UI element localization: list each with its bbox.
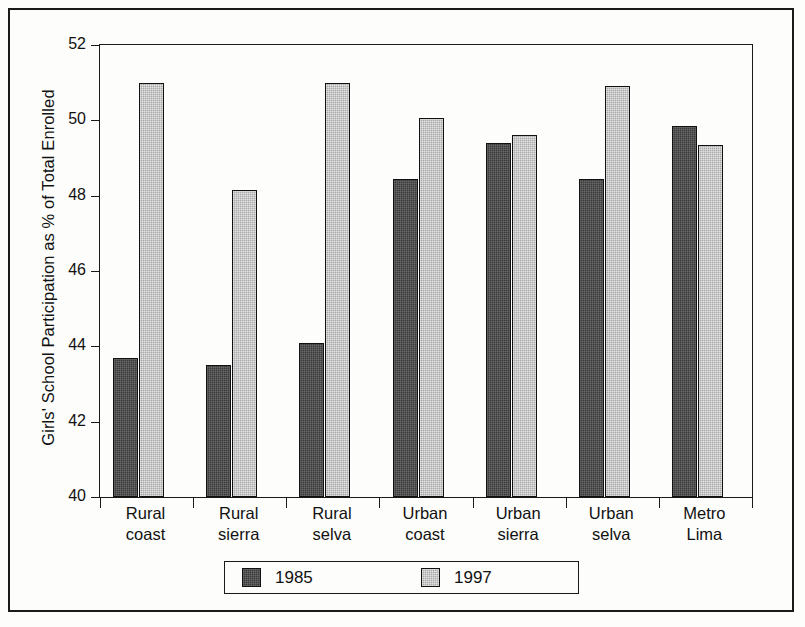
bar-group-rural-selva bbox=[299, 45, 350, 497]
plot-area: 40424446485052 bbox=[99, 44, 753, 498]
x-label-line: selva bbox=[285, 524, 378, 545]
x-label-line: Urban bbox=[565, 503, 658, 524]
x-label-urban-coast: Urbancoast bbox=[378, 503, 471, 545]
x-label-line: selva bbox=[565, 524, 658, 545]
x-label-line: coast bbox=[378, 524, 471, 545]
x-label-line: Metro bbox=[658, 503, 751, 524]
bar-1985-rural-selva bbox=[299, 343, 324, 497]
y-tick-label: 42 bbox=[68, 412, 86, 430]
x-label-rural-sierra: Ruralsierra bbox=[192, 503, 285, 545]
bar-group-urban-selva bbox=[579, 45, 630, 497]
bar-1985-rural-coast bbox=[113, 358, 138, 497]
legend-swatch-1997 bbox=[421, 568, 440, 587]
legend-item-1997: 1997 bbox=[421, 568, 492, 588]
x-label-metro-lima: MetroLima bbox=[658, 503, 751, 545]
bar-1997-urban-coast bbox=[419, 118, 444, 497]
y-tick-label: 50 bbox=[68, 110, 86, 128]
x-label-line: sierra bbox=[472, 524, 565, 545]
x-tick bbox=[752, 497, 753, 508]
legend-label-1985: 1985 bbox=[275, 568, 313, 588]
x-label-line: Lima bbox=[658, 524, 751, 545]
y-tick-50: 50 bbox=[91, 120, 100, 121]
x-label-line: Urban bbox=[472, 503, 565, 524]
bar-1997-rural-selva bbox=[325, 83, 350, 497]
x-label-line: coast bbox=[99, 524, 192, 545]
y-tick-46: 46 bbox=[91, 271, 100, 272]
x-label-line: Urban bbox=[378, 503, 471, 524]
y-tick-52: 52 bbox=[91, 45, 100, 46]
x-label-rural-selva: Ruralselva bbox=[285, 503, 378, 545]
legend-label-1997: 1997 bbox=[454, 568, 492, 588]
bar-1997-rural-coast bbox=[139, 83, 164, 497]
y-tick-label: 48 bbox=[68, 186, 86, 204]
bar-group-urban-coast bbox=[393, 45, 444, 497]
x-label-rural-coast: Ruralcoast bbox=[99, 503, 192, 545]
y-tick-42: 42 bbox=[91, 422, 100, 423]
bar-group-urban-sierra bbox=[486, 45, 537, 497]
bar-1997-metro-lima bbox=[698, 145, 723, 497]
x-label-line: Rural bbox=[99, 503, 192, 524]
chart-legend: 1985 1997 bbox=[224, 561, 579, 594]
bar-1985-urban-coast bbox=[393, 179, 418, 497]
y-tick-48: 48 bbox=[91, 196, 100, 197]
y-tick-label: 46 bbox=[68, 261, 86, 279]
legend-item-1985: 1985 bbox=[242, 568, 313, 588]
bar-group-metro-lima bbox=[672, 45, 723, 497]
x-label-line: Rural bbox=[192, 503, 285, 524]
bar-series-layer bbox=[100, 45, 752, 497]
bar-1997-urban-selva bbox=[605, 86, 630, 497]
x-label-line: sierra bbox=[192, 524, 285, 545]
bar-1985-metro-lima bbox=[672, 126, 697, 497]
bar-1985-urban-sierra bbox=[486, 143, 511, 497]
x-label-urban-selva: Urbanselva bbox=[565, 503, 658, 545]
y-tick-label: 40 bbox=[68, 487, 86, 505]
bar-1985-urban-selva bbox=[579, 179, 604, 497]
bar-1997-urban-sierra bbox=[512, 135, 537, 497]
legend-swatch-1985 bbox=[242, 568, 261, 587]
bar-1985-rural-sierra bbox=[206, 365, 231, 497]
x-label-line: Rural bbox=[285, 503, 378, 524]
chart-figure: Girls' School Participation as % of Tota… bbox=[0, 0, 805, 627]
y-tick-40: 40 bbox=[91, 497, 100, 498]
x-label-urban-sierra: Urbansierra bbox=[472, 503, 565, 545]
bar-group-rural-sierra bbox=[206, 45, 257, 497]
y-tick-44: 44 bbox=[91, 346, 100, 347]
y-tick-label: 52 bbox=[68, 35, 86, 53]
bar-group-rural-coast bbox=[113, 45, 164, 497]
y-axis-title: Girls' School Participation as % of Tota… bbox=[39, 48, 58, 488]
bar-1997-rural-sierra bbox=[232, 190, 257, 497]
y-tick-label: 44 bbox=[68, 336, 86, 354]
